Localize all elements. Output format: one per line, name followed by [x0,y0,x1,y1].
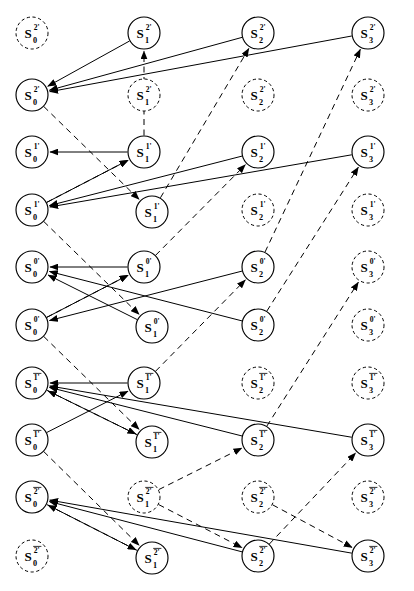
trellis-node[interactable]: S1'0 [16,194,48,226]
trellis-node[interactable]: S1'0 [16,424,48,456]
node-symbol: S [361,88,368,103]
node-subscript: 1 [153,445,157,454]
node-symbol: S [137,490,144,505]
trellis-node[interactable]: S2'0 [16,481,48,513]
trellis-node[interactable]: S1'2 [242,194,274,226]
trellis-node[interactable]: S0'0 [16,251,48,283]
node-subscript: 2 [259,328,263,337]
node-superscript: 2' [370,23,376,32]
trellis-node[interactable]: S1'2 [242,136,274,168]
node-symbol: S [251,260,258,275]
trellis-node[interactable]: S2'2 [242,17,274,49]
node-superscript: 2' [260,85,266,94]
node-superscript: 1' [154,432,160,441]
node-circle-dashed [352,251,384,283]
node-circle-dashed [242,481,274,513]
node-subscript: 0 [33,328,37,337]
trellis-node[interactable]: S1'0 [16,136,48,168]
node-symbol: S [25,260,32,275]
node-superscript: 1' [260,200,266,209]
node-circle-solid [242,251,274,283]
node-symbol: S [25,88,32,103]
trellis-node[interactable]: S1'3 [352,367,384,399]
node-subscript: 1 [145,98,149,107]
trellis-node[interactable]: S1'1 [136,426,168,458]
node-subscript: 2 [259,36,263,45]
trellis-node[interactable]: S1'2 [242,367,274,399]
node-symbol: S [361,490,368,505]
trellis-node[interactable]: S2'3 [352,540,384,572]
node-subscript: 3 [369,559,373,568]
node-symbol: S [251,549,258,564]
node-circle-solid [128,251,160,283]
node-circle-solid [352,424,384,456]
node-symbol: S [361,203,368,218]
trellis-node[interactable]: S0'2 [242,251,274,283]
trellis-node[interactable]: S1'1 [128,367,160,399]
trellis-node[interactable]: S2'2 [242,481,274,513]
trellis-node[interactable]: S2'1 [128,79,160,111]
trellis-node[interactable]: S2'3 [352,481,384,513]
trellis-node[interactable]: S2'3 [352,79,384,111]
node-superscript: 1' [146,373,152,382]
trellis-node[interactable]: S1'2 [242,424,274,456]
node-circle-solid [352,136,384,168]
trellis-node[interactable]: S1'1 [136,196,168,228]
node-symbol: S [25,26,32,41]
node-subscript: 2 [259,500,263,509]
trellis-node[interactable]: S0'3 [352,251,384,283]
trellis-node[interactable]: S2'2 [242,79,274,111]
node-symbol: S [145,320,152,335]
trellis-node[interactable]: S1'0 [16,367,48,399]
node-subscript: 1 [153,561,157,570]
node-symbol: S [137,376,144,391]
node-superscript: 1' [370,142,376,151]
node-circle-solid [16,309,48,341]
node-symbol: S [25,433,32,448]
trellis-node[interactable]: S1'3 [352,424,384,456]
node-symbol: S [137,145,144,160]
node-subscript: 3 [369,443,373,452]
node-superscript: 1' [370,373,376,382]
trellis-edge [48,275,137,320]
node-subscript: 2 [259,155,263,164]
node-symbol: S [361,260,368,275]
trellis-node[interactable]: S0'2 [242,309,274,341]
trellis-node[interactable]: S1'1 [128,136,160,168]
node-circle-solid [136,196,168,228]
node-subscript: 2 [259,386,263,395]
node-subscript: 2 [259,98,263,107]
node-circle-solid [136,426,168,458]
node-symbol: S [25,318,32,333]
trellis-edge [44,222,139,315]
trellis-node[interactable]: S1'3 [352,136,384,168]
node-symbol: S [145,551,152,566]
node-circle-solid [16,481,48,513]
node-superscript: 2' [34,546,40,555]
node-superscript: 0' [154,317,160,326]
trellis-node[interactable]: S1'3 [352,194,384,226]
trellis-node[interactable]: S0'1 [128,251,160,283]
node-circle-dashed [352,481,384,513]
trellis-node[interactable]: S2'1 [128,481,160,513]
node-subscript: 2 [259,559,263,568]
node-circle-dashed [16,540,48,572]
trellis-node[interactable]: S0'0 [16,309,48,341]
node-circle-dashed [352,367,384,399]
trellis-node[interactable]: S0'1 [136,311,168,343]
trellis-node[interactable]: S0'3 [352,309,384,341]
node-circle-dashed [128,481,160,513]
trellis-node[interactable]: S2'0 [16,540,48,572]
node-symbol: S [361,433,368,448]
trellis-node[interactable]: S2'0 [16,17,48,49]
node-subscript: 0 [33,213,37,222]
trellis-node[interactable]: S2'1 [128,17,160,49]
node-symbol: S [251,145,258,160]
trellis-edge [156,280,246,371]
trellis-node[interactable]: S2'0 [16,79,48,111]
trellis-node[interactable]: S2'3 [352,17,384,49]
node-superscript: 2' [260,23,266,32]
trellis-node[interactable]: S2'1 [136,542,168,574]
trellis-node[interactable]: S2'2 [242,540,274,572]
node-circle-solid [352,17,384,49]
